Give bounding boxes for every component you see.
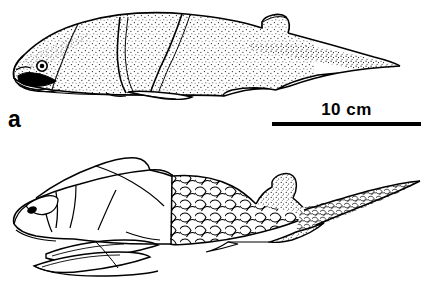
figure-plate: a 10 cm xyxy=(0,0,435,292)
scale-bar-a-label: 10 cm xyxy=(272,101,421,118)
panel-a: a 10 cm xyxy=(0,0,435,146)
panel-label-a: a xyxy=(8,108,21,131)
scale-bar-a: 10 cm xyxy=(272,96,421,126)
scale-bar-a-line xyxy=(272,122,421,126)
panel-b: b 10 cm xyxy=(0,146,435,292)
fish-b-illustration xyxy=(0,146,435,292)
fish-a-stipple-shading xyxy=(14,10,399,98)
